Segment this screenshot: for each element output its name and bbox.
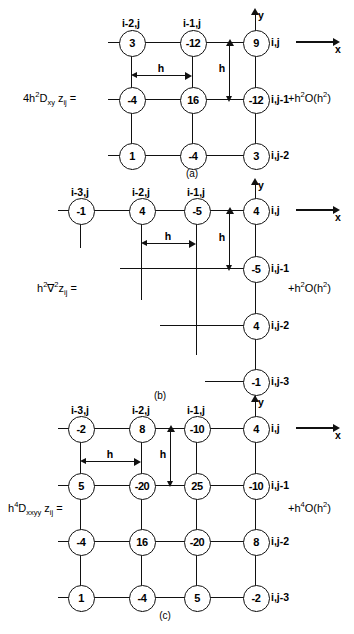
column-label: i-3,j [71,405,89,416]
err-close: ) [327,502,331,514]
row-label: i,j-3 [271,592,289,603]
eq-var-sub: ij [50,508,53,517]
dimension-arrow-right [189,240,196,248]
stencil-node: 9 [243,30,270,57]
column-label: i-2,j [122,18,140,29]
stencil-node: -12 [180,30,207,57]
axis-label-x: x [335,430,341,441]
equation-label-a: 4h2Dxy zij = [23,93,76,104]
axis-label-y: y [258,397,264,408]
row-label: i,j-1 [271,480,289,491]
error-term-c: +h4O(h2) [288,503,331,514]
dimension-arrow-left [131,72,137,78]
stencil-node: -4 [129,585,156,612]
dimension-line-h [82,461,139,462]
stencil-node: -2 [68,416,95,443]
err-big: O(h [305,502,323,514]
dimension-label-v: h [160,448,166,460]
stencil-node: 8 [243,529,270,556]
dimension-line-h [143,243,194,244]
row-label: i,j-3 [271,376,289,387]
error-term-a: +h2O(h2) [288,93,331,104]
row-label: i,j-2 [271,150,289,161]
stencil-node: -12 [243,87,270,114]
stencil-node: 3 [119,30,146,57]
stencil-node: 1 [68,585,95,612]
eq-var-sub: ij [64,288,67,297]
error-term-b: +h2O(h2) [288,283,331,294]
dimension-line-v [229,44,230,98]
eq-equals: = [70,92,76,104]
axis-label-y: y [258,10,264,21]
stencil-node: -4 [68,529,95,556]
dimension-arrow-left [80,458,86,464]
equation-label-c: h4Dxxyy zij = [8,503,63,514]
dimension-arrow-down [226,96,232,102]
dimension-label-h: h [107,448,113,460]
err-lead: +h [288,502,301,514]
stencil-node: -4 [119,87,146,114]
dimension-arrow-down [226,265,232,271]
stencil-node: 4 [243,416,270,443]
dimension-arrow-left [141,240,147,246]
grid-line-v [196,416,197,612]
row-label: i,j-1 [271,94,289,105]
axis-label-y: y [258,180,264,191]
eq-op-sub: xxyy [26,508,41,517]
dimension-arrow-right [185,72,192,80]
stencil-node: 25 [184,473,211,500]
eq-equals: = [70,282,76,294]
figure-canvas: y x i-2,j i-1,j i,j i,j-1 i,j-2 3 -12 9 … [0,0,354,634]
row-label: i,j [271,423,280,434]
stencil-node: 5 [184,585,211,612]
dimension-label-h: h [158,62,164,74]
stencil-node: -1 [243,369,270,396]
dimension-arrow-up [226,39,234,46]
stencil-node: -10 [184,416,211,443]
equation-label-b: h2∇2zij = [37,283,77,294]
dimension-arrow-up [226,207,234,214]
panel-caption-a: (a) [186,168,198,179]
err-close: ) [327,92,331,104]
stencil-node: 5 [68,473,95,500]
dimension-arrow-right [134,458,141,466]
stencil-node: -5 [243,256,270,283]
stencil-node: 16 [129,529,156,556]
row-label: i,j-2 [271,320,289,331]
stencil-node: -4 [180,143,207,170]
stencil-node: -10 [243,473,270,500]
eq-coef: 4h [23,92,35,104]
column-label: i-1,j [187,187,205,198]
err-close: ) [327,282,331,294]
dimension-label-h: h [165,230,171,242]
stencil-node: 1 [119,143,146,170]
stencil-node: 4 [243,313,270,340]
err-lead: +h [288,282,301,294]
row-label: i,j-2 [271,536,289,547]
grid-line-v [141,416,142,612]
stencil-node: 4 [129,198,156,225]
stencil-node: -5 [184,198,211,225]
axis-label-x: x [335,44,341,55]
axis-label-x: x [335,212,341,223]
dimension-arrow-down [167,481,173,487]
stencil-node: 4 [243,198,270,225]
eq-op-sub: xy [47,98,55,107]
stencil-node: 16 [180,87,207,114]
stencil-node: 8 [129,416,156,443]
row-label: i,j [271,205,280,216]
row-label: i,j-1 [271,263,289,274]
dimension-line-v [229,212,230,267]
dimension-line-v [170,430,171,483]
dimension-label-v: h [219,62,225,74]
stencil-node: -1 [68,198,95,225]
eq-equals: = [56,502,62,514]
panel-caption-b: (b) [154,390,166,401]
stencil-node: -20 [184,529,211,556]
dimension-line-h [133,75,190,76]
stencil-node: -2 [243,585,270,612]
column-label: i-2,j [132,405,150,416]
column-label: i-2,j [132,187,150,198]
eq-var-sub: ij [63,98,66,107]
column-label: i-1,j [187,405,205,416]
